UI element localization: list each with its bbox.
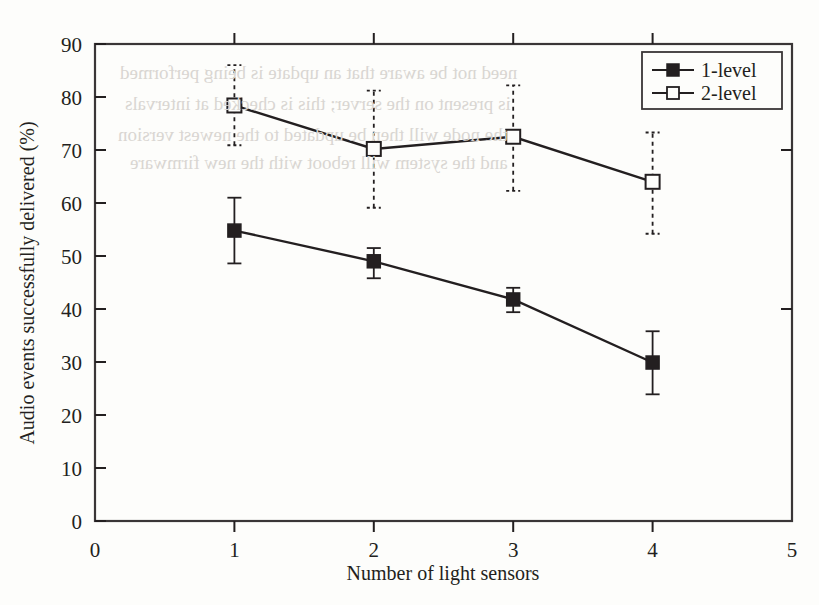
legend-marker-open-square [667, 87, 679, 99]
series-line-1-level [234, 231, 652, 363]
datapoint-1-level-x3[interactable] [507, 293, 520, 306]
y-tick-label-80: 80 [61, 86, 82, 110]
figure-container: need not be aware that an update is bein… [0, 0, 819, 605]
series-2-level [227, 65, 659, 234]
y-axis-tick-labels: 0102030405060708090 [61, 33, 82, 534]
x-axis-ticks [234, 33, 652, 532]
x-tick-label-2: 2 [369, 538, 380, 562]
x-axis-tick-labels: 012345 [90, 538, 798, 562]
legend: 1-level 2-level [642, 52, 782, 109]
x-axis-title: Number of light sensors [347, 562, 540, 585]
y-axis-ticks [95, 44, 792, 521]
datapoint-2-level-x3[interactable] [506, 130, 520, 144]
datapoint-1-level-x1[interactable] [228, 224, 241, 237]
data-series-layer [227, 65, 659, 394]
y-tick-label-40: 40 [61, 298, 82, 322]
series-1-level [227, 198, 659, 395]
legend-label-2-level: 2-level [701, 82, 757, 104]
datapoint-2-level-x2[interactable] [367, 142, 381, 156]
datapoint-1-level-x2[interactable] [367, 255, 380, 268]
plot-frame [95, 44, 792, 521]
legend-marker-filled-square [667, 64, 679, 76]
y-tick-label-0: 0 [72, 510, 83, 534]
y-tick-label-20: 20 [61, 404, 82, 428]
datapoint-2-level-x1[interactable] [227, 98, 241, 112]
x-tick-label-5: 5 [787, 538, 798, 562]
y-axis-title: Audio events successfully delivered (%) [16, 121, 39, 444]
series-line-2-level [234, 105, 652, 181]
x-tick-label-0: 0 [90, 538, 101, 562]
datapoint-1-level-x4[interactable] [646, 356, 659, 369]
y-tick-label-50: 50 [61, 245, 82, 269]
y-tick-label-10: 10 [61, 457, 82, 481]
x-tick-label-4: 4 [647, 538, 658, 562]
y-tick-label-30: 30 [61, 351, 82, 375]
x-tick-label-3: 3 [508, 538, 519, 562]
legend-label-1-level: 1-level [701, 59, 757, 81]
datapoint-2-level-x4[interactable] [646, 175, 660, 189]
y-tick-label-60: 60 [61, 192, 82, 216]
x-tick-label-1: 1 [229, 538, 240, 562]
y-tick-label-90: 90 [61, 33, 82, 57]
chart-canvas: 0102030405060708090 012345 Number of lig… [0, 0, 819, 605]
y-tick-label-70: 70 [61, 139, 82, 163]
